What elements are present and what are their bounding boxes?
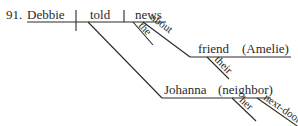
indirect-object-word: Johanna bbox=[164, 82, 207, 97]
verb-word: told bbox=[90, 7, 111, 22]
preposition-word: about bbox=[149, 11, 176, 35]
indirect-object-diagonal bbox=[88, 22, 162, 98]
prep-object-appositive: (Amelie) bbox=[242, 41, 289, 56]
subject-word: Debbie bbox=[27, 7, 65, 22]
prep-object-word: friend bbox=[198, 41, 230, 56]
next-door-word: next-door bbox=[262, 91, 298, 126]
sentence-number: 91. bbox=[6, 7, 22, 22]
sentence-diagram: 91. Debbie told news friend (Amelie) Joh… bbox=[0, 0, 298, 126]
